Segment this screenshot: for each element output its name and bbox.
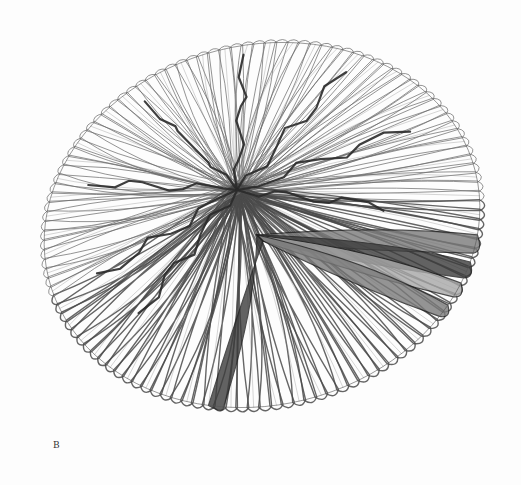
panel-label: B <box>53 440 60 450</box>
organism-illustration <box>0 0 521 485</box>
figure-canvas: B <box>0 0 521 485</box>
